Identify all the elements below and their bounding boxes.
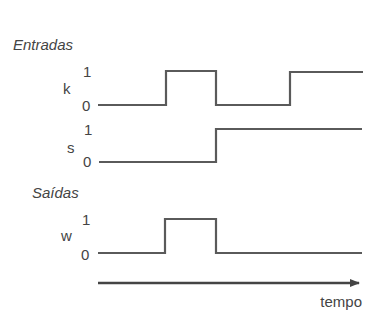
signal-w-name: w: [60, 227, 72, 244]
inputs-section-label: Entradas: [13, 36, 74, 53]
signal-k-low-label: 0: [82, 97, 90, 114]
signal-w-high-label: 1: [82, 211, 90, 228]
timing-diagram: Entradas k 1 0 s 1 0 Saídas w 1 0 tempo: [0, 0, 387, 320]
signal-s-low-label: 0: [83, 153, 91, 170]
signal-w: w 1 0: [60, 211, 362, 263]
signal-w-low-label: 0: [81, 246, 89, 263]
signal-k: k 1 0: [63, 63, 363, 114]
signal-k-high-label: 1: [83, 63, 91, 80]
signal-w-waveform: [98, 219, 362, 253]
time-axis: tempo: [98, 283, 362, 310]
outputs-section-label: Saídas: [32, 184, 79, 201]
signal-s-name: s: [67, 139, 75, 156]
signal-s-waveform: [99, 129, 362, 162]
signal-k-name: k: [63, 80, 71, 97]
signal-s-high-label: 1: [84, 121, 92, 138]
signal-s: s 1 0: [67, 121, 362, 170]
time-axis-label: tempo: [320, 293, 362, 310]
signal-k-waveform: [98, 71, 363, 105]
